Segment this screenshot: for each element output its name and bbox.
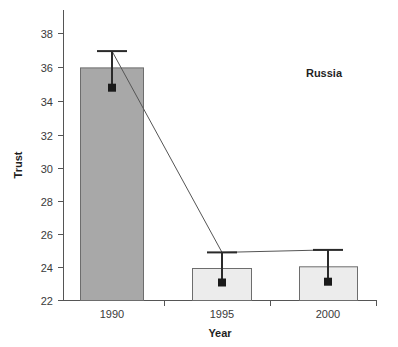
x-tick-label-1995: 1995	[210, 308, 234, 320]
y-tick-label: 36	[41, 62, 53, 74]
y-axis-title: Trust	[12, 151, 24, 178]
trust-by-year-bar-chart: 38 36 34 32 30 28 26 24 22 Trust	[0, 0, 398, 347]
y-tick-label: 34	[41, 96, 53, 108]
y-tick-label: 38	[41, 28, 53, 40]
point-marker-1990	[108, 84, 116, 92]
y-tick-label: 22	[41, 295, 53, 307]
y-tick-label: 24	[41, 262, 53, 274]
chart-figure: 38 36 34 32 30 28 26 24 22 Trust	[0, 0, 398, 347]
y-tick-label: 32	[41, 130, 53, 142]
y-tick-label: 26	[41, 229, 53, 241]
x-tick-label-2000: 2000	[316, 308, 340, 320]
x-axis-title: Year	[208, 327, 232, 339]
x-tick-label-1990: 1990	[100, 308, 124, 320]
y-axis-tick-labels: 38 36 34 32 30 28 26 24 22	[41, 28, 53, 307]
point-marker-2000	[324, 278, 332, 286]
country-annotation: Russia	[306, 67, 343, 79]
bar-1990[interactable]	[81, 68, 144, 301]
point-marker-1995	[218, 279, 226, 287]
y-tick-label: 30	[41, 163, 53, 175]
y-tick-label: 28	[41, 196, 53, 208]
